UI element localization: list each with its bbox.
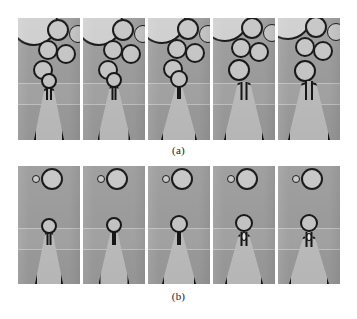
droplet-head — [300, 214, 318, 232]
frame-row-b — [18, 166, 340, 284]
liquid-neck — [177, 87, 181, 99]
micrograph-frame-b3 — [148, 166, 210, 284]
bubble-5 — [294, 60, 316, 82]
bubble-2 — [327, 23, 340, 41]
bubble-1 — [47, 19, 69, 41]
bubble-3 — [231, 38, 251, 58]
bubble-1 — [292, 175, 300, 183]
caption-b: (b) — [0, 290, 357, 302]
liquid-neck — [177, 232, 181, 245]
liquid-neck — [112, 87, 117, 100]
liquid-neck — [47, 233, 52, 245]
micrograph-frame-b4 — [213, 166, 275, 284]
micrograph-frame-b5 — [278, 166, 340, 284]
bubble-4 — [249, 42, 269, 62]
bubble-5 — [228, 59, 250, 81]
micrograph-frame-a3 — [148, 18, 210, 140]
bubble-2 — [69, 25, 80, 43]
frame-row-a — [18, 18, 340, 140]
droplet-head — [106, 72, 122, 88]
bubble-1 — [177, 18, 199, 40]
droplet-head — [41, 218, 57, 234]
micrograph-frame-a1 — [18, 18, 80, 140]
bubble-1 — [162, 175, 170, 183]
micrograph-frame-b2 — [83, 166, 145, 284]
bubble-3 — [103, 40, 123, 60]
droplet-head — [170, 215, 188, 233]
droplet-head — [170, 70, 188, 88]
micrograph-frame-a2 — [83, 18, 145, 140]
bubble-4 — [185, 43, 205, 63]
bubble-4 — [313, 41, 333, 61]
bubble-4 — [121, 44, 141, 64]
bubble-2 — [199, 25, 210, 43]
bubble-1 — [227, 175, 235, 183]
droplet-head — [106, 217, 122, 233]
bubble-3 — [295, 37, 315, 57]
bubble-1 — [241, 18, 263, 39]
satellite-droplet — [307, 233, 312, 241]
bubble-2 — [301, 168, 323, 190]
bubble-1 — [112, 19, 134, 41]
satellite-droplet — [242, 232, 247, 241]
bubble-2 — [106, 168, 128, 190]
liquid-neck — [112, 232, 116, 245]
liquid-neck — [46, 88, 52, 100]
micrograph-frame-a5 — [278, 18, 340, 140]
bubble-2 — [263, 24, 275, 42]
bubble-2 — [134, 25, 145, 43]
bubble-2 — [41, 168, 63, 190]
bubble-1 — [97, 175, 105, 183]
droplet-head — [235, 214, 253, 232]
bubble-4 — [56, 44, 76, 64]
bubble-3 — [167, 39, 187, 59]
caption-a: (a) — [0, 144, 357, 156]
droplet-head — [41, 73, 57, 89]
bubble-1 — [305, 18, 327, 38]
liquid-neck — [241, 82, 248, 100]
bubble-3 — [38, 40, 58, 60]
liquid-neck — [305, 81, 313, 100]
figure-panel: (a) (b) — [0, 0, 357, 319]
bubble-2 — [171, 168, 193, 190]
bubble-2 — [236, 168, 258, 190]
micrograph-frame-a4 — [213, 18, 275, 140]
bubble-1 — [32, 175, 40, 183]
micrograph-frame-b1 — [18, 166, 80, 284]
